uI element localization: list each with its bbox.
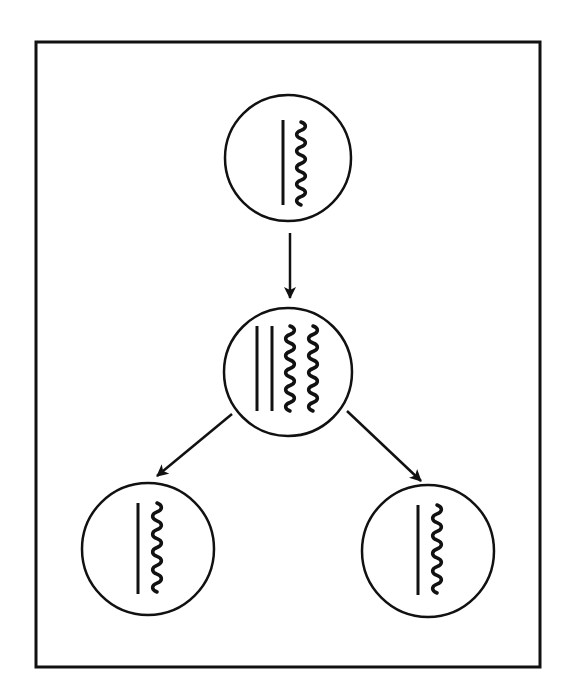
- arrows-group: [157, 233, 421, 481]
- parent-cell: Parent cell: [225, 95, 351, 221]
- wavy-strand: [153, 503, 162, 592]
- cell-membrane: [82, 483, 214, 615]
- cell-membrane: [362, 485, 494, 617]
- daughter-cell-left: Daughter cell (left): [82, 483, 214, 615]
- cell-division-diagram: Parent cellReplicated cellDaughter cell …: [0, 0, 568, 686]
- cell-membrane: [225, 95, 351, 221]
- arrow-replicated-to-right: [347, 411, 421, 481]
- replicated-cell: Replicated cell: [224, 308, 352, 436]
- cells-group: Parent cellReplicated cellDaughter cell …: [82, 95, 494, 617]
- cell-membrane: [224, 308, 352, 436]
- wavy-strand: [297, 122, 306, 205]
- wavy-strand: [309, 326, 318, 411]
- wavy-strand: [433, 505, 442, 593]
- arrow-replicated-to-left: [157, 414, 232, 476]
- wavy-strand: [286, 326, 295, 411]
- daughter-cell-right: Daughter cell (right): [362, 485, 494, 617]
